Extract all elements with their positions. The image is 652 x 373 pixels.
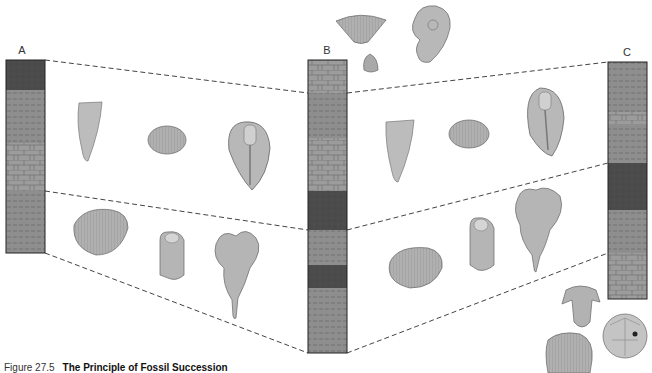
ammonite-icon bbox=[412, 6, 450, 63]
figure-caption: Figure 27.5The Principle of Fossil Succe… bbox=[4, 362, 228, 373]
ribbed-brachiopod-icon bbox=[546, 333, 592, 373]
layer-dark-shale bbox=[308, 265, 347, 288]
layer-shale bbox=[608, 210, 647, 253]
figure-number: Figure 27.5 bbox=[4, 362, 55, 373]
layer-shale bbox=[308, 93, 347, 138]
brachiopod-icon bbox=[148, 126, 186, 154]
figure-title: The Principle of Fossil Succession bbox=[63, 362, 228, 373]
fossils-upper-zone-ab bbox=[78, 102, 270, 190]
layer-shale bbox=[608, 124, 647, 163]
clam-icon bbox=[389, 248, 442, 288]
fossils-lower-zone-ab bbox=[74, 209, 259, 318]
clam-icon bbox=[74, 209, 128, 255]
crinoid-icon bbox=[215, 231, 259, 318]
layer-limestone bbox=[6, 143, 45, 191]
column-c-label: C bbox=[623, 46, 631, 58]
layer-shale bbox=[6, 90, 45, 143]
column-b: B bbox=[308, 44, 347, 353]
layer-limestone bbox=[308, 60, 347, 93]
small-clam-icon bbox=[364, 54, 378, 72]
spiny-trilobite-icon bbox=[562, 286, 600, 327]
column-a: A bbox=[6, 44, 45, 253]
fossils-upper-zone-bc bbox=[386, 88, 564, 182]
layer-dark-shale bbox=[608, 163, 647, 210]
brachiopod-icon bbox=[449, 120, 489, 148]
fossil-succession-diagram: A B C bbox=[0, 0, 652, 373]
layer-dark-shale bbox=[308, 191, 347, 230]
layer-shale bbox=[308, 230, 347, 265]
layer-shale bbox=[608, 62, 647, 112]
column-c: C bbox=[608, 46, 647, 299]
correlation-line-b-c-upper bbox=[347, 62, 608, 93]
layer-shale bbox=[308, 288, 347, 353]
spirifer-brachiopod-icon bbox=[336, 15, 386, 43]
layer-shale bbox=[6, 191, 45, 253]
fossils-lower-zone-bc bbox=[389, 188, 561, 288]
horn-coral-icon bbox=[78, 102, 102, 161]
fossils-top-b bbox=[336, 6, 450, 72]
column-a-label: A bbox=[18, 44, 26, 56]
crinoid-icon bbox=[515, 188, 561, 272]
column-b-label: B bbox=[323, 44, 330, 56]
layer-limestone bbox=[308, 138, 347, 191]
correlation-line-a-b-upper bbox=[45, 60, 308, 93]
layer-limestone bbox=[608, 112, 647, 124]
layer-dark-shale bbox=[6, 60, 45, 90]
horn-coral-icon bbox=[386, 120, 414, 182]
layer-limestone bbox=[608, 253, 647, 299]
